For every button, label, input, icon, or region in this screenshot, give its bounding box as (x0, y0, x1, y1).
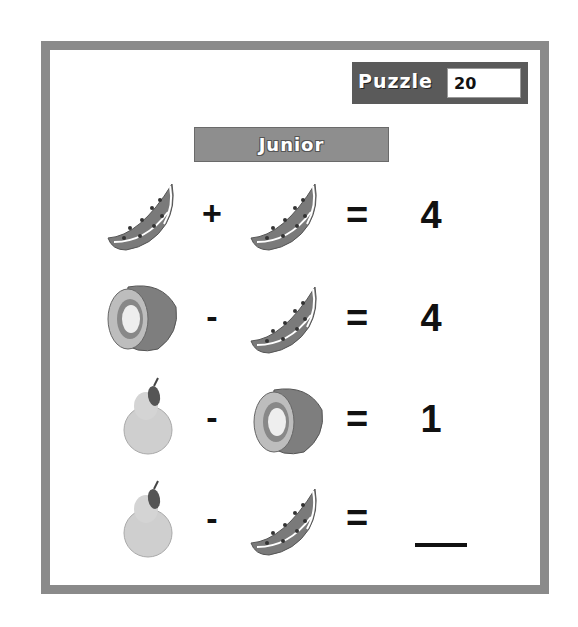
answer-blank-line[interactable] (415, 543, 467, 547)
level-label: Junior (259, 134, 325, 155)
puzzle-label: Puzzle (358, 70, 433, 92)
equation-row: + = 4 (0, 172, 578, 262)
watermelon-icon (243, 279, 323, 359)
plus-sign: + (198, 194, 226, 233)
watermelon-icon (243, 176, 323, 256)
equation-row: - = 1 (0, 376, 578, 466)
kiwi-icon (248, 380, 328, 460)
level-banner: Junior (194, 127, 389, 162)
watermelon-icon (100, 176, 180, 256)
puzzle-number-box: Puzzle 20 (352, 62, 528, 104)
watermelon-icon (243, 481, 323, 561)
answer-value: 4 (408, 297, 454, 340)
puzzle-number-field[interactable]: 20 (447, 68, 521, 98)
minus-sign: - (198, 499, 226, 538)
equals-sign: = (343, 497, 371, 540)
minus-sign: - (198, 297, 226, 336)
equation-row: - = 4 (0, 275, 578, 365)
answer-value: 4 (408, 194, 454, 237)
equation-row: - = (0, 477, 578, 567)
equals-sign: = (343, 398, 371, 441)
equals-sign: = (343, 297, 371, 340)
equals-sign: = (343, 194, 371, 237)
kiwi-icon (102, 277, 182, 357)
minus-sign: - (198, 398, 226, 437)
pear-icon (108, 376, 188, 456)
pear-icon (108, 479, 188, 559)
answer-value: 1 (408, 398, 454, 441)
